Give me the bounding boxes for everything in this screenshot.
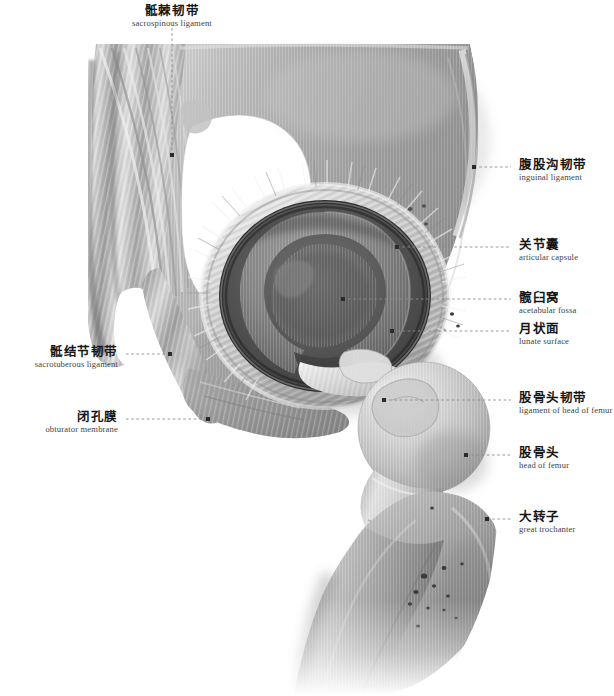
label-articular-capsule: 关节囊articular capsule: [519, 238, 578, 262]
label-en-ligament-of-head-of-femur: ligament of head of femur: [519, 406, 612, 415]
anatomical-plate: 骶棘韧带sacrospinous ligament腹股沟韧带inguinal l…: [0, 0, 614, 696]
label-cn-acetabular-fossa: 髋臼窝: [519, 291, 577, 305]
leader-dot-obturator-membrane: [206, 417, 210, 421]
label-obturator-membrane: 闭孔膜obturator membrane: [0, 410, 118, 434]
label-en-sacrotuberous-ligament: sacrotuberous ligament: [0, 360, 118, 369]
label-en-lunate-surface: lunate surface: [519, 337, 569, 346]
label-en-articular-capsule: articular capsule: [519, 253, 578, 262]
leader-dot-sacrotuberous-ligament: [168, 352, 172, 356]
leader-dot-acetabular-fossa: [341, 297, 345, 301]
label-cn-ligament-of-head-of-femur: 股骨头韧带: [519, 391, 612, 405]
label-cn-sacrotuberous-ligament: 骶结节韧带: [0, 345, 118, 359]
label-en-sacrospinous-ligament: sacrospinous ligament: [82, 19, 262, 28]
label-ligament-of-head-of-femur: 股骨头韧带ligament of head of femur: [519, 391, 612, 415]
label-lunate-surface: 月状面lunate surface: [519, 322, 569, 346]
label-en-head-of-femur: head of femur: [519, 461, 569, 470]
label-sacrotuberous-ligament: 骶结节韧带sacrotuberous ligament: [0, 345, 118, 369]
label-en-inguinal-ligament: inguinal ligament: [519, 173, 587, 182]
label-en-acetabular-fossa: acetabular fossa: [519, 306, 577, 315]
label-cn-obturator-membrane: 闭孔膜: [0, 410, 118, 424]
leader-dot-lunate-surface: [390, 329, 394, 333]
leader-dot-articular-capsule: [395, 245, 399, 249]
leader-dot-sacrospinous-ligament: [170, 153, 174, 157]
leader-dot-inguinal-ligament: [472, 165, 476, 169]
label-cn-lunate-surface: 月状面: [519, 322, 569, 336]
label-cn-articular-capsule: 关节囊: [519, 238, 578, 252]
label-sacrospinous-ligament: 骶棘韧带sacrospinous ligament: [82, 4, 262, 28]
label-cn-head-of-femur: 股骨头: [519, 446, 569, 460]
label-en-obturator-membrane: obturator membrane: [0, 425, 118, 434]
acetabulum-group: [219, 200, 431, 392]
label-acetabular-fossa: 髋臼窝acetabular fossa: [519, 291, 577, 315]
label-cn-inguinal-ligament: 腹股沟韧带: [519, 158, 587, 172]
leader-dot-great-trochanter: [485, 517, 489, 521]
label-great-trochanter: 大转子great trochanter: [519, 510, 576, 534]
label-en-great-trochanter: great trochanter: [519, 525, 576, 534]
label-cn-great-trochanter: 大转子: [519, 510, 576, 524]
label-cn-sacrospinous-ligament: 骶棘韧带: [82, 4, 262, 18]
leader-dot-head-of-femur: [464, 453, 468, 457]
label-head-of-femur: 股骨头head of femur: [519, 446, 569, 470]
leader-dot-ligament-of-head-of-femur: [382, 398, 386, 402]
label-inguinal-ligament: 腹股沟韧带inguinal ligament: [519, 158, 587, 182]
